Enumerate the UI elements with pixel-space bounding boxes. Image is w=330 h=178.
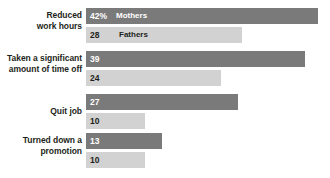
bar-fathers[interactable] — [86, 70, 221, 86]
category-label-time-off: Taken a significant amount of time off — [0, 53, 82, 74]
category-label-reduced-work-hours: Reduced work hours — [0, 10, 82, 31]
legend-label-mothers: Mothers — [116, 8, 147, 24]
bar-value-mothers: 27 — [90, 94, 99, 110]
legend-label-fathers: Fathers — [119, 27, 148, 43]
bar-mothers[interactable] — [86, 94, 238, 110]
category-label-line1: Turned down a — [23, 135, 82, 145]
bar-value-fathers: 10 — [90, 113, 99, 129]
category-label-line2: amount of time off — [9, 64, 82, 74]
category-label-line2: work hours — [37, 21, 82, 31]
bar-value-fathers: 10 — [90, 152, 99, 168]
bar-value-mothers: 13 — [90, 133, 99, 149]
category-label-line1: Taken a significant — [7, 53, 82, 63]
bar-mothers[interactable] — [86, 51, 305, 67]
bar-value-fathers: 28 — [90, 27, 99, 43]
bar-value-fathers: 24 — [90, 70, 99, 86]
category-label-line1: Reduced — [46, 10, 82, 20]
category-label-turned-down-promotion: Turned down a promotion — [0, 135, 82, 156]
bar-value-mothers: 39 — [90, 51, 99, 67]
bar-value-mothers: 42% — [90, 8, 107, 24]
category-label-line1: Quit job — [50, 106, 82, 116]
bar-fathers[interactable] — [86, 27, 242, 43]
grouped-bar-chart: Reduced work hours 42% Mothers 28 Father… — [0, 0, 330, 178]
category-label-line2: promotion — [40, 146, 82, 156]
category-label-quit-job: Quit job — [0, 106, 82, 117]
